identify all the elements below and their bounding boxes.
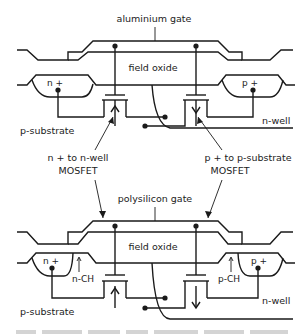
pmos-symbol-bottom: [183, 275, 209, 308]
p-substrate-label-bottom: p-substrate: [20, 306, 75, 317]
nmos-symbol-top: [102, 95, 128, 126]
p-plus-label-bottom: p +: [251, 256, 267, 266]
field-oxide-label: field oxide: [128, 62, 177, 73]
well-terminal-dot-bottom: [162, 295, 167, 300]
left-callout-line1: n + to n-well: [48, 152, 109, 163]
field-oxide-top: [68, 52, 242, 60]
n-well-label-bottom: n-well: [262, 295, 290, 306]
aluminium-gate-outline: [17, 41, 293, 60]
pmos-symbol-top: [183, 95, 209, 126]
n-well-boundary-bottom: [152, 263, 293, 319]
aluminium-gate-label: aluminium gate: [117, 13, 192, 24]
n-plus-label-bottom: n +: [43, 256, 59, 266]
arrowhead-left-up: [108, 117, 114, 124]
top-cross-section: aluminium gate field oxide n + p +: [17, 13, 295, 136]
nmos-symbol-bottom: [102, 275, 128, 308]
arrowhead-left-down: [99, 211, 106, 218]
p-plus-label: p +: [242, 78, 258, 88]
n-plus-contact: [55, 87, 60, 92]
parasitic-mosfet-diagram: aluminium gate field oxide n + p +: [0, 0, 307, 334]
p-channel-label: p-CH: [218, 274, 240, 284]
substrate-terminal-dot-bottom: [142, 305, 147, 310]
arrowhead-right-down: [205, 211, 212, 218]
p-substrate-label: p-substrate: [20, 125, 75, 136]
substrate-terminal-dot: [142, 123, 147, 128]
p-plus-contact-bottom: [255, 265, 260, 270]
p-plus-contact: [250, 87, 255, 92]
bottom-cross-section: polysilicon gate field oxide n + p + n-C…: [17, 193, 295, 319]
n-well-label: n-well: [262, 115, 290, 126]
n-channel-label: n-CH: [72, 274, 94, 284]
n-plus-label: n +: [47, 78, 63, 88]
right-callout-line1: p + to p-substrate: [204, 152, 291, 163]
left-callout-line2: MOSFET: [59, 165, 98, 176]
well-terminal-dot: [162, 114, 167, 119]
right-callout-line2: MOSFET: [211, 165, 250, 176]
n-plus-wire: [58, 90, 104, 117]
polysilicon-gate-label: polysilicon gate: [118, 193, 193, 204]
n-plus-contact-bottom: [49, 265, 54, 270]
clipped-caption: [16, 330, 288, 334]
field-oxide-label-bottom: field oxide: [128, 241, 177, 252]
